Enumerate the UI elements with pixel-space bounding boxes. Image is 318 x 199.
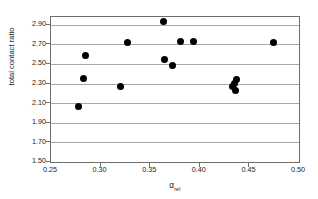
gridline — [51, 142, 299, 143]
x-axis-tick-label: 0.35 — [129, 166, 169, 174]
data-point — [160, 18, 167, 25]
gridline — [51, 25, 299, 26]
y-axis-tick-label: 1.50 — [2, 157, 46, 164]
x-axis-tick-label: 0.25 — [30, 166, 70, 174]
gridline — [51, 84, 299, 85]
data-point — [80, 75, 87, 82]
gridline — [51, 44, 299, 45]
gridline — [51, 103, 299, 104]
y-axis-title: total contact ratio — [7, 0, 16, 117]
data-point — [75, 103, 82, 110]
x-axis-tick-mark — [149, 163, 150, 167]
plot-area — [50, 16, 300, 163]
gridline — [51, 123, 299, 124]
x-axis-tick-mark — [248, 163, 249, 167]
data-point — [177, 38, 184, 45]
data-point — [270, 39, 277, 46]
x-axis-tick-label: 0.40 — [179, 166, 219, 174]
x-axis-tick-mark — [199, 163, 200, 167]
x-axis-title: αrel — [50, 180, 300, 192]
data-point — [232, 87, 239, 94]
data-point — [117, 83, 124, 90]
data-point — [82, 52, 89, 59]
x-axis-title-subscript: rel — [174, 186, 181, 192]
scatter-chart-figure: 1.501.701.902.102.302.502.702.90 total c… — [0, 0, 318, 199]
y-axis-tick-label: 1.90 — [2, 118, 46, 125]
x-axis-tick-label: 0.50 — [278, 166, 318, 174]
data-point — [233, 76, 240, 83]
x-axis-tick-label: 0.30 — [80, 166, 120, 174]
y-axis-tick-label: 1.70 — [2, 138, 46, 145]
data-point — [169, 62, 176, 69]
x-axis-tick-mark — [100, 163, 101, 167]
x-axis-tick-label: 0.45 — [228, 166, 268, 174]
x-axis-tick-labels: 0.250.300.350.400.450.50 — [50, 166, 300, 178]
data-point — [124, 39, 131, 46]
data-point — [161, 56, 168, 63]
